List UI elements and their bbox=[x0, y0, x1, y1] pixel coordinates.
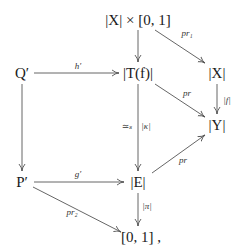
label-pr-top: pr bbox=[183, 89, 191, 98]
label-h-prime: h′ bbox=[75, 62, 81, 71]
arrow-tf-to-y bbox=[155, 84, 205, 117]
node-unit-interval: [0, 1] , bbox=[121, 230, 161, 245]
arrow-xxi-to-x bbox=[155, 30, 205, 63]
label-g-prime: g′ bbox=[75, 170, 81, 179]
node-y: |Y| bbox=[209, 118, 226, 133]
label-kappa: |κ| bbox=[141, 122, 150, 131]
node-x: |X| bbox=[209, 66, 226, 81]
commutative-diagram: |X| × [0, 1] Q′ |T(f)| |X| |Y| P′ |E| [0… bbox=[0, 0, 245, 249]
node-q-prime: Q′ bbox=[15, 66, 29, 81]
label-pr2: pr₂ bbox=[66, 208, 77, 217]
label-f: |f| bbox=[223, 96, 230, 105]
label-pi: |π| bbox=[142, 202, 151, 211]
node-t-of-f: |T(f)| bbox=[123, 66, 153, 81]
label-pr1: pr₁ bbox=[181, 29, 192, 38]
label-pr-bottom: pr bbox=[179, 156, 187, 165]
label-simeq-s: ≃ₛ bbox=[122, 122, 133, 131]
node-e: |E| bbox=[130, 175, 145, 190]
node-p-prime: P′ bbox=[16, 175, 28, 190]
node-x-times-interval: |X| × [0, 1] bbox=[105, 13, 170, 28]
